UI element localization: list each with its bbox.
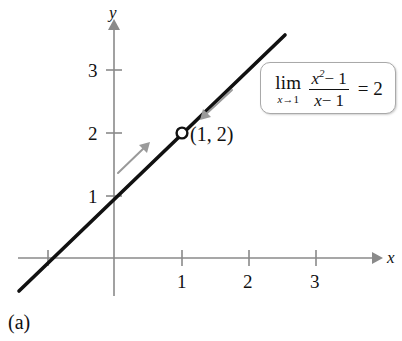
- limit-formula-box: lim x→1 x2− 1 x− 1 = 2: [260, 62, 396, 114]
- lim-sub-target: 1: [294, 93, 300, 105]
- x-tick-label-3: 3: [310, 272, 320, 291]
- limit-operator: lim x→1: [275, 72, 301, 105]
- figure-caption: (a): [8, 312, 30, 332]
- y-axis-label: y: [109, 4, 117, 21]
- fraction-bar: [309, 89, 348, 90]
- x-axis-group: [18, 252, 383, 264]
- figure-container: y x 1 2 3 1 2 3 (1, 2) lim x→1 x2− 1 x− …: [0, 0, 402, 341]
- limit-expression: lim x→1 x2− 1 x− 1 = 2: [275, 67, 383, 111]
- numerator-variable: x: [311, 69, 319, 88]
- lim-subscript: x→1: [278, 93, 299, 105]
- denominator-rest: − 1: [322, 91, 344, 110]
- y-axis-group: [108, 19, 120, 296]
- fraction-denominator: x− 1: [312, 91, 346, 111]
- x-axis-arrowhead: [372, 252, 383, 264]
- open-point-marker: [177, 128, 188, 139]
- denominator-variable: x: [314, 91, 322, 110]
- fraction-numerator: x2− 1: [309, 67, 348, 88]
- graph-canvas: [0, 0, 402, 341]
- y-tick-label-2: 2: [88, 124, 98, 143]
- x-axis-label: x: [387, 249, 395, 266]
- equals-value: = 2: [358, 78, 383, 100]
- y-tick-label-1: 1: [88, 187, 98, 206]
- function-line: [19, 35, 285, 291]
- x-tick-label-2: 2: [243, 272, 253, 291]
- numerator-rest: − 1: [324, 69, 346, 88]
- y-tick-label-3: 3: [88, 61, 98, 80]
- point-coordinate-label: (1, 2): [190, 124, 233, 144]
- lim-sub-arrow: →: [283, 93, 294, 105]
- approach-arrow-right: [200, 90, 232, 120]
- fraction: x2− 1 x− 1: [309, 67, 348, 111]
- lim-text: lim: [275, 72, 301, 94]
- x-tick-label-1: 1: [177, 272, 187, 291]
- limit-formula-content: lim x→1 x2− 1 x− 1 = 2: [261, 63, 397, 115]
